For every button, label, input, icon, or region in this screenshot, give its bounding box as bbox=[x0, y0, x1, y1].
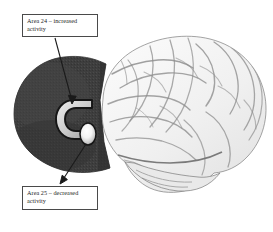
callout-area25-line2: activity bbox=[27, 197, 94, 205]
arrowhead-area25 bbox=[60, 175, 67, 184]
callout-box-area-24: Area 24 – increased activity bbox=[22, 14, 98, 37]
callout-area25-line1: Area 25 – decreased bbox=[27, 189, 78, 196]
subgenual-blob bbox=[80, 123, 96, 145]
lateral-cortical-surface bbox=[102, 36, 266, 192]
callout-area24-line2: activity bbox=[27, 25, 94, 33]
callout-area24-line1: Area 24 – increased bbox=[27, 17, 77, 24]
callout-box-area-25: Area 25 – decreased activity bbox=[22, 186, 98, 210]
brain-activity-figure: Area 24 – increased activity Area 25 – d… bbox=[0, 0, 273, 232]
